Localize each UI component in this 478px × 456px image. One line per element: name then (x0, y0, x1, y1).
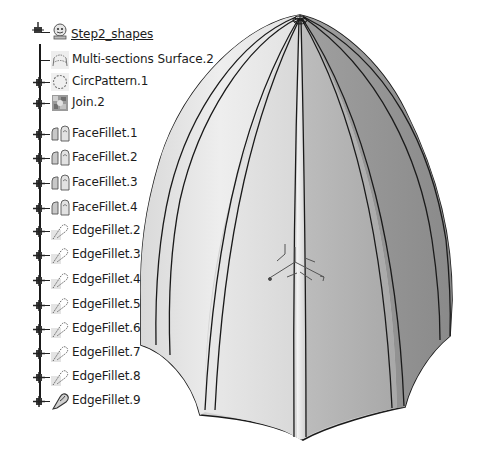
face-fillet-icon (50, 198, 70, 218)
tree-connector (41, 103, 50, 104)
tree-connector (41, 280, 50, 281)
tree-connector (41, 60, 50, 61)
edge-fillet-icon (50, 245, 70, 265)
collapse-root-icon[interactable] (32, 22, 44, 36)
tree-node-circ-pattern[interactable]: CircPattern.1 (0, 71, 220, 93)
tree-node-edge-fillet[interactable]: EdgeFillet.2 (0, 220, 220, 242)
tree-node-face-fillet[interactable]: FaceFillet.3 (0, 172, 220, 194)
tree-node-multi-sections-surface[interactable]: Multi-sections Surface.2 (0, 49, 220, 71)
edge-fillet-icon (50, 367, 70, 387)
tree-connector (41, 82, 50, 83)
tree-node-label[interactable]: FaceFillet.1 (72, 126, 138, 140)
tree-connector (41, 353, 50, 354)
tree-node-edge-fillet-current[interactable]: EdgeFillet.9 (0, 390, 220, 412)
tree-node-edge-fillet[interactable]: EdgeFillet.6 (0, 318, 220, 340)
circular-pattern-icon (50, 72, 70, 92)
tree-node-edge-fillet[interactable]: EdgeFillet.4 (0, 269, 220, 291)
edge-fillet-icon (50, 343, 70, 363)
tree-node-edge-fillet[interactable]: EdgeFillet.8 (0, 366, 220, 388)
tree-connector (41, 183, 50, 184)
3d-viewport[interactable]: Step2_shapes Multi-sections Surface.2 (0, 0, 478, 456)
tree-node-edge-fillet[interactable]: EdgeFillet.3 (0, 244, 220, 266)
join-icon (50, 93, 70, 113)
tree-node-label[interactable]: EdgeFillet.5 (72, 297, 141, 311)
tree-connector (41, 158, 50, 159)
tree-connector (41, 329, 50, 330)
tree-node-face-fillet[interactable]: FaceFillet.1 (0, 123, 220, 145)
tree-connector (41, 255, 50, 256)
specification-tree[interactable]: Step2_shapes Multi-sections Surface.2 (0, 0, 220, 456)
tree-connector (41, 134, 50, 135)
tree-connector (41, 231, 50, 232)
tree-node-label[interactable]: FaceFillet.2 (72, 150, 138, 164)
tree-connector (41, 377, 50, 378)
tree-connector (41, 305, 50, 306)
tree-node-label[interactable]: EdgeFillet.3 (72, 247, 141, 261)
edge-fillet-icon (50, 221, 70, 241)
tree-node-label[interactable]: EdgeFillet.9 (72, 393, 141, 407)
face-fillet-icon (50, 173, 70, 193)
tree-node-label[interactable]: CircPattern.1 (72, 74, 148, 88)
tree-node-label[interactable]: EdgeFillet.8 (72, 369, 141, 383)
tree-node-label[interactable]: FaceFillet.4 (72, 200, 138, 214)
tree-connector (41, 32, 50, 33)
tree-node-label[interactable]: EdgeFillet.6 (72, 321, 141, 335)
tree-node-label[interactable]: EdgeFillet.2 (72, 223, 141, 237)
edge-fillet-active-icon (50, 391, 70, 411)
tree-node-face-fillet[interactable]: FaceFillet.4 (0, 197, 220, 219)
tree-connector (41, 401, 50, 402)
tree-node-label[interactable]: Multi-sections Surface.2 (72, 52, 214, 66)
tree-node-label[interactable]: EdgeFillet.7 (72, 345, 141, 359)
tree-node-join[interactable]: Join.2 (0, 92, 220, 114)
tree-node-label[interactable]: FaceFillet.3 (72, 175, 138, 189)
face-fillet-icon (50, 148, 70, 168)
edge-fillet-icon (50, 295, 70, 315)
tree-node-label[interactable]: EdgeFillet.4 (72, 272, 141, 286)
body-gear-icon (50, 22, 70, 42)
tree-node-face-fillet[interactable]: FaceFillet.2 (0, 147, 220, 169)
tree-root-label[interactable]: Step2_shapes (71, 27, 153, 41)
edge-fillet-icon (50, 319, 70, 339)
multi-sections-surface-icon (50, 50, 70, 70)
tree-node-edge-fillet[interactable]: EdgeFillet.7 (0, 342, 220, 364)
tree-connector (41, 208, 50, 209)
tree-node-label[interactable]: Join.2 (72, 95, 105, 109)
edge-fillet-icon (50, 270, 70, 290)
face-fillet-icon (50, 124, 70, 144)
tree-root-node[interactable]: Step2_shapes (0, 24, 220, 46)
tree-node-edge-fillet[interactable]: EdgeFillet.5 (0, 294, 220, 316)
